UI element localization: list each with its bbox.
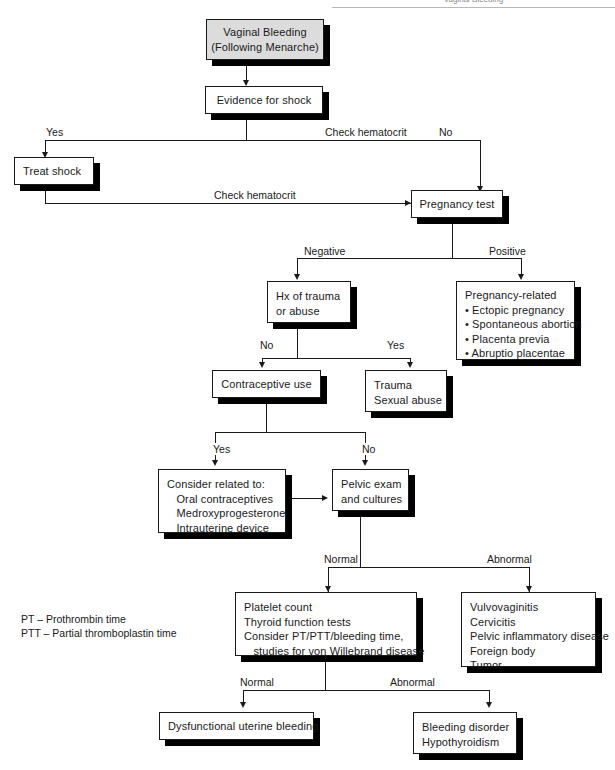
arrowhead-hx-trauma-yes <box>407 362 413 368</box>
node-evidence-for-shock[interactable]: Evidence for shock <box>205 86 323 114</box>
node-contraceptive-use[interactable]: Contraceptive use <box>212 370 321 398</box>
node-pregnancy-test[interactable]: Pregnancy test <box>411 190 503 218</box>
legend-pt: PT – Prothrombin time <box>21 612 126 626</box>
node-pelvic-exam[interactable]: Pelvic exam and cultures <box>332 469 409 511</box>
arrowhead-pregnancy-negative <box>294 274 300 280</box>
legend-ptt: PTT – Partial thromboplastin time <box>21 626 177 640</box>
arrowhead-contraceptive-no <box>362 460 368 466</box>
edge-labs-bus <box>243 690 489 691</box>
edge-consider-to-pelvic <box>286 498 326 499</box>
arrowhead-labs-normal <box>240 702 246 708</box>
node-treat-shock[interactable]: Treat shock <box>14 157 94 185</box>
edge-pregnancy-bus <box>297 258 521 259</box>
label-contraceptive-no: No <box>360 443 377 455</box>
node-consider-related-to[interactable]: Consider related to: Oral contraceptives… <box>158 469 286 533</box>
cropped-page-header-text: Vaginal Bleeding <box>332 0 615 4</box>
node-abnormal-pelvic-findings[interactable]: Vulvovaginitis Cervicitis Pelvic inflamm… <box>461 592 596 667</box>
edge-pelvic-bus <box>328 567 529 568</box>
edge-treat-shock-to-pregnancy <box>45 203 411 204</box>
edge-pelvic-stem <box>360 511 361 567</box>
cropped-page-header: Vaginal Bleeding <box>332 0 615 9</box>
label-check-hematocrit-top: Check hematocrit <box>323 126 409 138</box>
flowchart-canvas: Vaginal Bleeding Vaginal Bleeding (Follo… <box>0 0 615 770</box>
arrowhead-pregnancy-positive <box>518 274 524 280</box>
node-hx-of-trauma[interactable]: Hx of trauma or abuse <box>267 281 351 323</box>
label-hx-trauma-no: No <box>258 339 275 351</box>
arrowhead-contraceptive-yes <box>212 460 218 466</box>
label-pelvic-abnormal: Abnormal <box>485 553 534 565</box>
node-bleeding-disorder[interactable]: Bleeding disorder Hypothyroidism <box>413 712 517 754</box>
node-lab-workup[interactable]: Platelet count Thyroid function tests Co… <box>235 592 417 656</box>
label-pregnancy-negative: Negative <box>302 245 347 257</box>
node-vaginal-bleeding[interactable]: Vaginal Bleeding (Following Menarche) <box>206 19 324 60</box>
node-pregnancy-related[interactable]: Pregnancy-related • Ectopic pregnancy • … <box>456 281 575 360</box>
edge-contraceptive-bus <box>215 432 365 433</box>
arrowhead-consider-to-pelvic <box>322 495 328 501</box>
arrowhead-hx-trauma-no <box>259 362 265 368</box>
cropped-page-header-rule <box>332 7 615 8</box>
label-contraceptive-yes: Yes <box>211 443 232 455</box>
arrowhead-labs-abnormal <box>486 702 492 708</box>
label-pelvic-normal: Normal <box>322 553 360 565</box>
edge-shock-bus <box>45 140 480 141</box>
label-check-hematocrit-bottom: Check hematocrit <box>212 189 298 201</box>
label-pregnancy-positive: Positive <box>487 245 528 257</box>
label-shock-yes: Yes <box>44 126 65 138</box>
node-trauma-sexual-abuse[interactable]: Trauma Sexual abuse <box>365 370 447 412</box>
edge-pregnancy-stem <box>452 218 453 258</box>
label-labs-abnormal: Abnormal <box>388 676 437 688</box>
label-labs-normal: Normal <box>238 676 276 688</box>
edge-hx-trauma-bus <box>262 358 410 359</box>
node-dysfunctional-uterine-bleeding[interactable]: Dysfunctional uterine bleeding <box>159 712 314 740</box>
label-hx-trauma-yes: Yes <box>385 339 406 351</box>
label-shock-no: No <box>437 126 454 138</box>
edge-shock-no-drop <box>480 140 481 191</box>
